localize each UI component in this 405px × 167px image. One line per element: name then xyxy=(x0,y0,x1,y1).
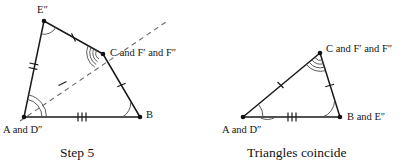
vertex-right-a-and-d-double-prime xyxy=(241,115,246,120)
label-c-and-f-left: C and F′ and F″ xyxy=(110,48,176,59)
angle-arc-b xyxy=(123,102,131,117)
angle-arc-right-b xyxy=(323,100,335,117)
caption-step-5: Step 5 xyxy=(60,146,94,160)
vertex-c-and-f xyxy=(101,52,106,57)
segment-right-a-to-c xyxy=(243,53,320,117)
label-c-and-f-right: C and F′ and F″ xyxy=(326,44,392,55)
geometry-figure: E″ C and F′ and F″ A and D″ B C and F′ a… xyxy=(0,0,405,167)
dashed-construction-ray xyxy=(20,22,166,121)
vertex-e-double-prime xyxy=(42,19,47,24)
caption-triangles-coincide: Triangles coincide xyxy=(247,146,347,160)
vertex-right-b-and-e-double-prime xyxy=(338,115,343,120)
tick-dashed-a-to-c xyxy=(59,82,67,86)
label-a-and-d-right: A and D″ xyxy=(222,125,261,136)
angle-arc-e-double-prime xyxy=(41,27,56,34)
vertex-b xyxy=(138,115,143,120)
tick-a-to-e-double-prime xyxy=(29,63,39,69)
label-b-left: B xyxy=(146,110,153,121)
figure-svg xyxy=(0,0,405,167)
left-diagram-group xyxy=(20,19,166,122)
vertex-a-and-d-double-prime xyxy=(22,115,27,120)
right-diagram-group xyxy=(241,51,343,122)
label-a-and-d-left: A and D″ xyxy=(3,125,42,136)
label-b-and-e-right: B and E″ xyxy=(347,112,385,123)
vertex-right-c-and-f xyxy=(318,51,323,56)
label-e-double-prime: E″ xyxy=(37,5,48,16)
